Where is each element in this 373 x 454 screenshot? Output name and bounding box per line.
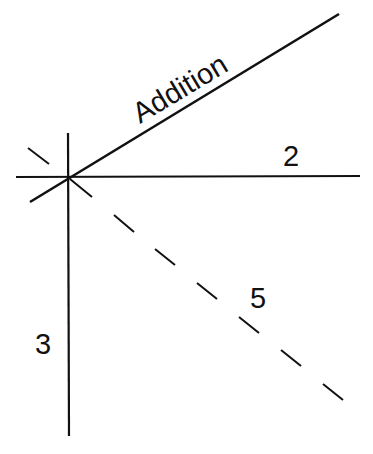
tick-mark	[28, 148, 49, 164]
addition-line	[30, 14, 339, 202]
label-vertical: 3	[35, 328, 51, 360]
horizontal-line	[16, 176, 360, 177]
dashed-line	[70, 179, 343, 400]
diagram-canvas: Addition 2 5 3	[0, 0, 373, 454]
label-dashed: 5	[250, 282, 266, 314]
label-horizontal: 2	[283, 140, 299, 172]
line-diagram: Addition 2 5 3	[0, 0, 373, 454]
